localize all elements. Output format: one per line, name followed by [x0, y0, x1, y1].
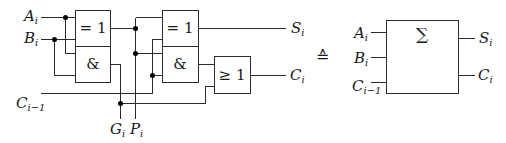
wire-g: [111, 65, 121, 119]
junction-dot: [118, 101, 123, 106]
input-a-label: Ai: [24, 9, 38, 26]
junction-dot: [63, 15, 68, 20]
output-s-label: Si: [291, 21, 304, 38]
block-output-cout-label: Ci: [478, 68, 493, 85]
wire-a-to-and1: [66, 18, 76, 54]
xor1-label: = 1: [80, 21, 107, 36]
full-adder-diagram: = 1 & = 1 & ≥ 1 Ai Bi Ci−1 Gi Pi Si Ci ≙…: [0, 0, 506, 143]
block-input-cin-label: Ci−1: [352, 79, 381, 96]
and1-label: &: [86, 57, 99, 72]
input-cin-label: Ci−1: [16, 96, 45, 113]
equivalence-symbol: ≙: [316, 49, 329, 65]
block-input-a-label: Ai: [354, 26, 368, 43]
circuit-wiring: [0, 0, 506, 143]
junction-dot: [133, 51, 138, 56]
input-b-label: Bi: [24, 31, 38, 48]
junction-dot: [52, 37, 57, 42]
xor2-label: = 1: [167, 21, 194, 36]
output-cout-label: Ci: [290, 68, 305, 85]
junction-dot: [133, 26, 138, 31]
or-label: ≥ 1: [219, 68, 246, 83]
junction-dot: [150, 73, 155, 78]
g-label: Gi: [110, 122, 125, 139]
block-input-b-label: Bi: [354, 51, 368, 68]
block-output-s-label: Si: [479, 31, 492, 48]
and2-label: &: [173, 57, 186, 72]
p-label: Pi: [130, 122, 143, 139]
wire-g-to-or: [121, 87, 215, 104]
sigma-symbol: ∑: [416, 26, 428, 43]
